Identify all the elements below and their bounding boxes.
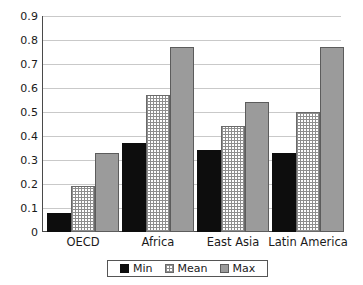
- bar-min[interactable]: [47, 213, 71, 232]
- y-axis-tick-label: 0.2: [0, 179, 38, 190]
- bar-mean[interactable]: [221, 126, 245, 232]
- bar-max[interactable]: [320, 47, 344, 232]
- bar-group: [47, 16, 119, 232]
- legend-item-mean[interactable]: Mean: [165, 263, 208, 274]
- y-axis-tick-label: 0.8: [0, 35, 38, 46]
- bar-group: [197, 16, 269, 232]
- y-axis-tick-label: 0.1: [0, 203, 38, 214]
- legend-label: Max: [233, 263, 256, 274]
- y-axis-tick-label: 0.4: [0, 131, 38, 142]
- legend-label: Min: [133, 263, 153, 274]
- legend-label: Mean: [178, 263, 208, 274]
- bar-group: [272, 16, 344, 232]
- legend-swatch-max-icon: [220, 264, 229, 273]
- bar-max[interactable]: [245, 102, 269, 232]
- legend-item-max[interactable]: Max: [220, 263, 256, 274]
- bar-chart: 0.90.80.70.60.50.40.30.20.10 OECDAfricaE…: [0, 0, 363, 285]
- bar-mean[interactable]: [296, 112, 320, 232]
- chart-legend: MinMeanMax: [107, 260, 268, 277]
- legend-item-min[interactable]: Min: [120, 263, 153, 274]
- y-axis-tick-label: 0.3: [0, 155, 38, 166]
- bar-min[interactable]: [122, 143, 146, 232]
- bar-mean[interactable]: [71, 186, 95, 232]
- legend-swatch-mean-icon: [165, 264, 174, 273]
- x-axis-category-label: Latin America: [252, 235, 363, 249]
- bar-group: [122, 16, 194, 232]
- y-axis-labels: 0.90.80.70.60.50.40.30.20.10: [0, 0, 38, 248]
- bar-max[interactable]: [95, 153, 119, 232]
- legend-swatch-min-icon: [120, 264, 129, 273]
- bars-layer: [42, 16, 341, 232]
- bar-min[interactable]: [197, 150, 221, 232]
- bar-min[interactable]: [272, 153, 296, 232]
- y-axis-tick-label: 0.5: [0, 107, 38, 118]
- bar-mean[interactable]: [146, 95, 170, 232]
- y-axis-tick-label: 0.9: [0, 11, 38, 22]
- bar-max[interactable]: [170, 47, 194, 232]
- x-axis-labels: OECDAfricaEast AsiaLatin America: [42, 235, 341, 253]
- y-axis-tick-label: 0.7: [0, 59, 38, 70]
- y-axis-tick-label: 0.6: [0, 83, 38, 94]
